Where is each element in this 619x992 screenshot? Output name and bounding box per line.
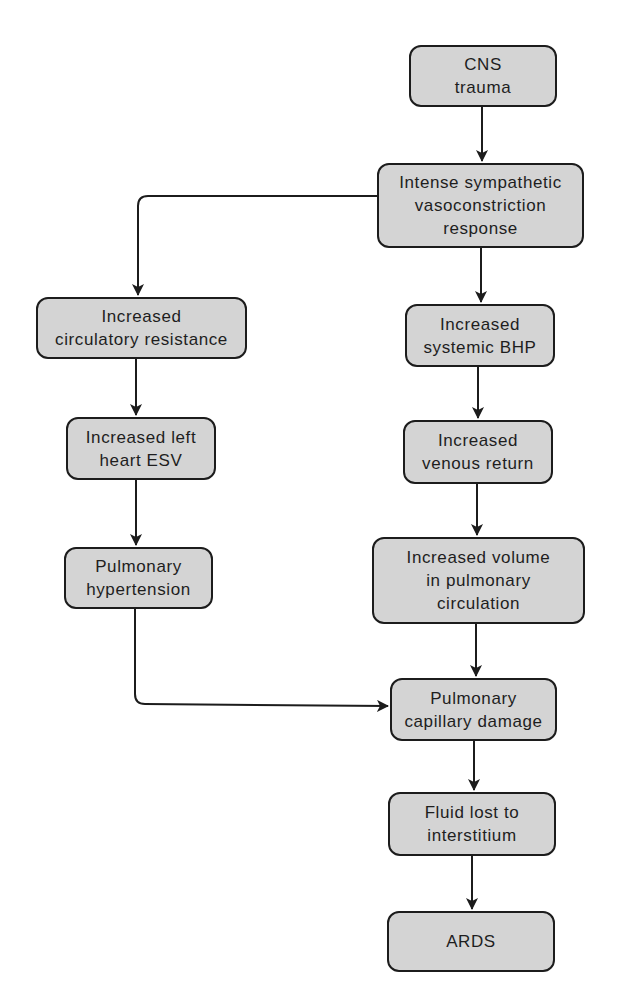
node-pulmonary-hypertension: Pulmonary hypertension xyxy=(64,547,213,609)
node-cns-trauma: CNS trauma xyxy=(409,45,557,107)
node-left-heart-esv: Increased left heart ESV xyxy=(66,417,216,480)
node-ards: ARDS xyxy=(387,911,555,972)
arrow-pulm-hypertension-to-capillary-damage xyxy=(135,609,388,706)
node-capillary-damage: Pulmonary capillary damage xyxy=(390,678,557,741)
arrow-sympathetic-to-circ-resistance xyxy=(138,196,377,295)
node-sympathetic-vasoconstriction: Intense sympathetic vasoconstriction res… xyxy=(377,163,584,248)
node-fluid-lost: Fluid lost to interstitium xyxy=(388,792,556,856)
node-circulatory-resistance: Increased circulatory resistance xyxy=(36,297,247,359)
node-venous-return: Increased venous return xyxy=(403,420,553,484)
node-systemic-bhp: Increased systemic BHP xyxy=(405,304,555,367)
node-pulmonary-volume: Increased volume in pulmonary circulatio… xyxy=(372,537,585,624)
